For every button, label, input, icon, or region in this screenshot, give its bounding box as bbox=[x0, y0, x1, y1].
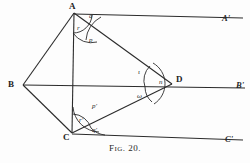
ray-label-A-prime: A' bbox=[222, 14, 230, 23]
ray-A-to-Aprime bbox=[74, 14, 243, 18]
angle-label-r: r bbox=[77, 25, 80, 32]
ray-C-to-Cprime bbox=[72, 134, 243, 140]
vertex-label-B: B bbox=[8, 80, 14, 89]
angle-label-r-prime: r' bbox=[79, 117, 83, 124]
vertex-label-D: D bbox=[176, 75, 183, 84]
angle-label-n: n bbox=[159, 79, 163, 86]
angle-arc-D-iota bbox=[144, 66, 150, 87]
edge-C-D bbox=[72, 84, 172, 133]
angle-label-q-prime: q' bbox=[92, 127, 97, 134]
edge-B-C bbox=[23, 85, 72, 133]
ray-label-C-prime: C' bbox=[225, 135, 233, 144]
figure-caption: FIG. 20. bbox=[0, 144, 250, 153]
angle-label-iota: ι bbox=[138, 69, 140, 76]
geometry-diagram bbox=[0, 0, 250, 163]
ray-label-B-prime: B' bbox=[236, 81, 244, 90]
vertex-label-A: A bbox=[69, 2, 76, 11]
angle-label-q: q bbox=[89, 13, 93, 20]
caption-smallcaps: IG bbox=[114, 145, 122, 153]
angle-label-p: p bbox=[89, 37, 93, 44]
edge-A-C bbox=[72, 13, 74, 133]
figure-20-container: A B C D A' B' C' q r p ι n ω p' r' q' FI… bbox=[0, 0, 250, 163]
edge-A-D bbox=[74, 13, 172, 84]
ray-B-to-Bprime bbox=[23, 85, 245, 88]
angle-label-p-prime: p' bbox=[92, 103, 97, 110]
caption-suffix: . 20. bbox=[123, 143, 141, 153]
vertex-label-C: C bbox=[63, 133, 70, 142]
edge-B-A bbox=[23, 13, 74, 85]
angle-arc-A-p bbox=[73, 33, 97, 43]
angle-label-omega: ω bbox=[137, 93, 142, 100]
